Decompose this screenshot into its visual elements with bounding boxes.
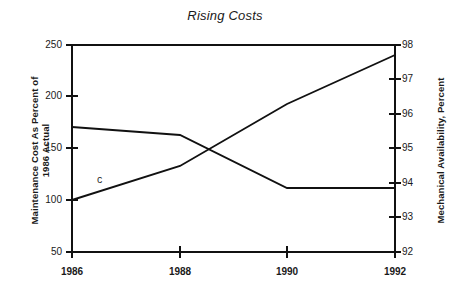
chart-plot-area	[0, 0, 450, 297]
series-line-mechanical-availability	[72, 127, 395, 188]
series-line-maintenance-cost	[72, 55, 395, 200]
